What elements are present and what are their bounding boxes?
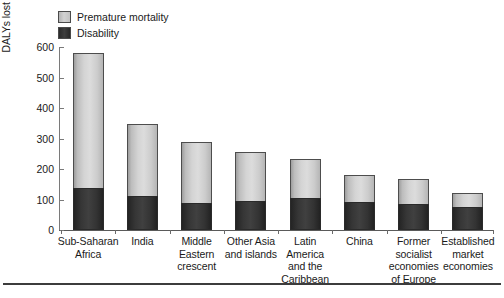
bar-segment-disability <box>181 203 212 230</box>
x-axis-line <box>59 230 493 231</box>
legend-item-disability: Disability <box>58 25 278 40</box>
bar-1 <box>127 124 158 230</box>
bar-segment-premature-mortality <box>73 53 104 188</box>
y-tick-label: 400 <box>26 103 54 113</box>
bar-segment-disability <box>73 188 104 230</box>
bar-segment-premature-mortality <box>127 124 158 196</box>
chart-figure: Premature mortality Disability DALYs los… <box>0 0 504 298</box>
y-tick-mark <box>60 47 64 48</box>
bar-4 <box>290 159 321 230</box>
bar-segment-disability <box>452 207 483 230</box>
legend-swatch-disability <box>58 27 71 39</box>
bar-segment-disability <box>344 202 375 230</box>
bar-0 <box>73 53 104 230</box>
bar-6 <box>398 179 429 230</box>
y-tick-label: 200 <box>26 164 54 174</box>
y-tick-mark <box>60 200 64 201</box>
y-tick-label: 0 <box>26 225 54 235</box>
y-tick-mark <box>60 169 64 170</box>
x-tick-mark <box>61 230 62 234</box>
x-tick-mark <box>224 230 225 234</box>
plot-area: 0100200300400500600 <box>59 47 493 231</box>
bar-segment-premature-mortality <box>181 142 212 203</box>
bar-segment-premature-mortality <box>344 175 375 202</box>
x-tick-mark <box>441 230 442 234</box>
y-tick-label: 500 <box>26 73 54 83</box>
legend-item-premature-mortality: Premature mortality <box>58 9 278 24</box>
chart-legend: Premature mortality Disability <box>58 9 278 41</box>
bar-segment-disability <box>127 196 158 230</box>
bar-segment-disability <box>398 204 429 230</box>
x-tick-mark <box>278 230 279 234</box>
bar-segment-premature-mortality <box>398 179 429 205</box>
bar-7 <box>452 193 483 230</box>
bar-5 <box>344 175 375 230</box>
x-tick-mark <box>493 230 494 234</box>
y-tick-label: 600 <box>26 42 54 52</box>
legend-swatch-premature-mortality <box>58 11 71 23</box>
y-tick-mark <box>60 139 64 140</box>
bar-3 <box>235 152 266 230</box>
y-tick-label: 300 <box>26 134 54 144</box>
bar-segment-premature-mortality <box>235 152 266 200</box>
x-tick-mark <box>170 230 171 234</box>
x-tick-mark <box>115 230 116 234</box>
bar-segment-disability <box>235 201 266 230</box>
x-tick-mark <box>387 230 388 234</box>
legend-label-disability: Disability <box>77 27 119 39</box>
bar-segment-premature-mortality <box>290 159 321 197</box>
x-axis-label-7: Established market economies <box>434 235 502 273</box>
y-tick-mark <box>60 78 64 79</box>
y-tick-label: 100 <box>26 195 54 205</box>
legend-label-premature-mortality: Premature mortality <box>77 11 169 23</box>
bar-2 <box>181 142 212 230</box>
bar-segment-premature-mortality <box>452 193 483 208</box>
y-tick-mark <box>60 108 64 109</box>
bar-segment-disability <box>290 198 321 230</box>
x-tick-mark <box>332 230 333 234</box>
bottom-divider <box>3 283 501 285</box>
y-axis-title: DALYs lost per 1,000 population <box>0 0 14 74</box>
